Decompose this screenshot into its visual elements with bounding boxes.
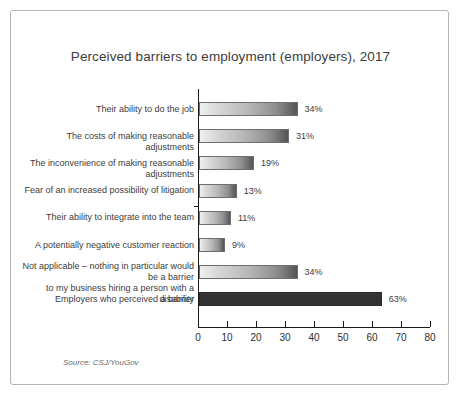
x-tick-mark [401, 321, 402, 327]
category-label-line: The costs of making reasonable adjustmen… [16, 131, 194, 153]
category-label: A potentially negative customer reaction [16, 240, 194, 251]
bar-row: 9% [199, 238, 431, 252]
x-tick-mark [372, 321, 373, 327]
x-tick-label: 30 [279, 332, 290, 343]
bar [199, 184, 237, 198]
y-axis-tick [194, 206, 198, 207]
category-label: Fear of an increased possibility of liti… [16, 185, 194, 196]
bar-value-label: 9% [232, 238, 245, 252]
bar-value-label: 19% [261, 156, 279, 170]
bar-row: 11% [199, 211, 431, 225]
x-tick-mark [343, 321, 344, 327]
x-tick-label: 70 [395, 332, 406, 343]
category-label-line: A potentially negative customer reaction [16, 240, 194, 251]
x-tick-label: 60 [366, 332, 377, 343]
x-tick-label: 80 [424, 332, 435, 343]
category-label-line: Employers who perceived a barrier [16, 294, 194, 305]
bar-value-label: 31% [296, 129, 314, 143]
bar [199, 129, 289, 143]
plot-area: 34%31%19%13%11%9%34%63% 0102030405060708… [198, 89, 430, 327]
category-axis-labels: Their ability to do the jobThe costs of … [16, 89, 194, 327]
x-tick-mark [430, 321, 431, 327]
bar-row: 34% [199, 102, 431, 116]
category-label-line: Their ability to do the job [16, 104, 194, 115]
category-label-line: The inconvenience of making reasonable a… [16, 158, 194, 180]
bar [199, 156, 254, 170]
category-label-line: Their ability to integrate into the team [16, 212, 194, 223]
category-label-line: Fear of an increased possibility of liti… [16, 185, 194, 196]
bar [199, 211, 231, 225]
chart-title: Perceived barriers to employment (employ… [11, 49, 450, 64]
category-label: The inconvenience of making reasonable a… [16, 158, 194, 180]
bar-row: 63% [199, 292, 431, 306]
category-label: Employers who perceived a barrier [16, 294, 194, 305]
source-note: Source: CSJ/YouGov [63, 358, 139, 367]
x-axis-ticks: 01020304050607080 [198, 327, 430, 351]
bar [199, 238, 225, 252]
chart-frame: Perceived barriers to employment (employ… [10, 10, 449, 385]
bar-value-label: 63% [389, 292, 407, 306]
x-tick-mark [198, 321, 199, 327]
category-label-line: Not applicable – nothing in particular w… [16, 261, 194, 283]
bar-value-label: 11% [238, 211, 255, 225]
y-axis-line [198, 89, 199, 327]
bar-row: 31% [199, 129, 431, 143]
category-label: The costs of making reasonable adjustmen… [16, 131, 194, 153]
category-label: Their ability to integrate into the team [16, 212, 194, 223]
x-tick-label: 50 [337, 332, 348, 343]
bar-value-label: 34% [305, 265, 323, 279]
x-tick-mark [227, 321, 228, 327]
bar-value-label: 13% [244, 184, 262, 198]
x-tick-label: 40 [308, 332, 319, 343]
bar-value-label: 34% [305, 102, 323, 116]
bar-row: 34% [199, 265, 431, 279]
x-tick-label: 0 [195, 332, 201, 343]
x-tick-mark [314, 321, 315, 327]
x-tick-mark [285, 321, 286, 327]
bar [199, 292, 382, 306]
x-tick-mark [256, 321, 257, 327]
bar [199, 265, 298, 279]
bar-row: 13% [199, 184, 431, 198]
category-label: Their ability to do the job [16, 104, 194, 115]
x-tick-label: 20 [250, 332, 261, 343]
bar [199, 102, 298, 116]
x-tick-label: 10 [221, 332, 232, 343]
bar-row: 19% [199, 156, 431, 170]
